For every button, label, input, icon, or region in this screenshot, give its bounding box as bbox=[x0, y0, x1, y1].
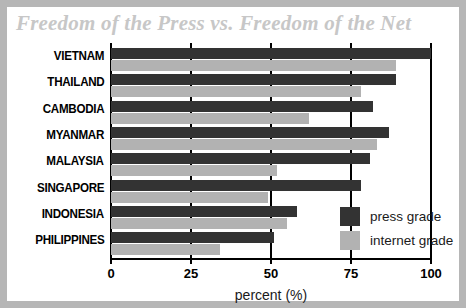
category-label-myanmar: MYANMAR bbox=[46, 128, 104, 142]
legend-label-press: press grade bbox=[370, 209, 441, 224]
bar-indonesia-internet-grade bbox=[111, 218, 287, 229]
bar-myanmar-press-grade bbox=[111, 127, 389, 138]
bar-vietnam-internet-grade bbox=[111, 60, 396, 71]
category-label-vietnam: VIETNAM bbox=[54, 49, 104, 63]
bar-thailand-internet-grade bbox=[111, 86, 361, 97]
legend-swatch-press bbox=[340, 207, 360, 226]
x-tick-label-50: 50 bbox=[264, 266, 278, 281]
chart-canvas: Freedom of the Press vs. Freedom of the … bbox=[7, 7, 459, 301]
legend-label-internet: internet grade bbox=[370, 233, 453, 248]
bar-philippines-press-grade bbox=[111, 232, 274, 243]
bar-malaysia-internet-grade bbox=[111, 165, 277, 176]
tick-mark-0 bbox=[110, 258, 112, 264]
legend-item-internet: internet grade bbox=[340, 228, 453, 252]
bar-thailand-press-grade bbox=[111, 74, 396, 85]
tick-mark-25 bbox=[190, 258, 192, 264]
tick-mark-75 bbox=[350, 258, 352, 264]
bar-cambodia-internet-grade bbox=[111, 113, 309, 124]
x-tick-label-25: 25 bbox=[184, 266, 198, 281]
legend-item-press: press grade bbox=[340, 204, 453, 228]
bar-singapore-internet-grade bbox=[111, 192, 268, 203]
bar-myanmar-internet-grade bbox=[111, 139, 377, 150]
chart-legend: press gradeinternet grade bbox=[340, 204, 453, 252]
category-label-malaysia: MALAYSIA bbox=[47, 154, 104, 168]
x-axis-label: percent (%) bbox=[111, 287, 431, 303]
category-label-cambodia: CAMBODIA bbox=[42, 102, 104, 116]
chart-title: Freedom of the Press vs. Freedom of the … bbox=[16, 10, 456, 36]
tick-mark-100 bbox=[430, 258, 432, 264]
chart-figure: Freedom of the Press vs. Freedom of the … bbox=[0, 0, 466, 308]
bar-philippines-internet-grade bbox=[111, 244, 220, 255]
category-label-thailand: THAILAND bbox=[47, 75, 104, 89]
category-label-indonesia: INDONESIA bbox=[42, 207, 104, 221]
x-tick-label-0: 0 bbox=[107, 266, 114, 281]
bar-malaysia-press-grade bbox=[111, 153, 370, 164]
legend-swatch-internet bbox=[340, 231, 360, 250]
x-tick-label-75: 75 bbox=[344, 266, 358, 281]
bar-indonesia-press-grade bbox=[111, 206, 297, 217]
tick-mark-50 bbox=[270, 258, 272, 264]
x-tick-label-100: 100 bbox=[420, 266, 442, 281]
bar-cambodia-press-grade bbox=[111, 101, 373, 112]
bar-vietnam-press-grade bbox=[111, 48, 431, 59]
category-label-singapore: SINGAPORE bbox=[37, 181, 104, 195]
category-label-philippines: PHILIPPINES bbox=[35, 233, 104, 247]
bar-singapore-press-grade bbox=[111, 180, 361, 191]
